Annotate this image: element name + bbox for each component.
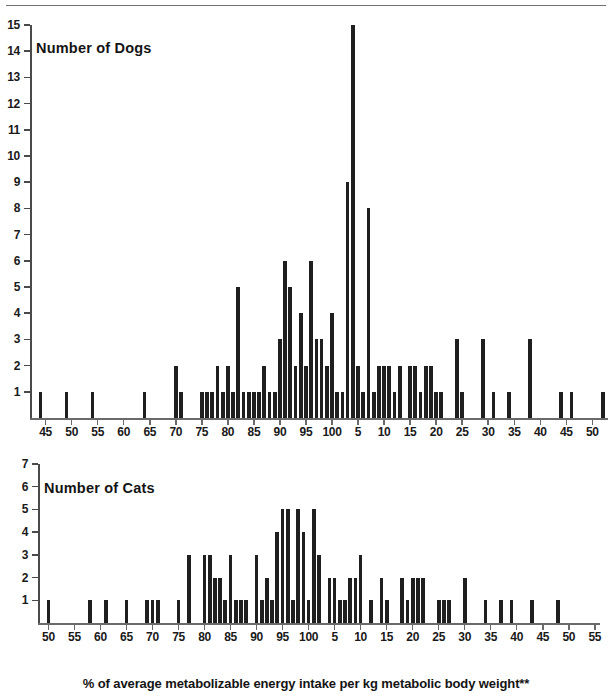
histogram-bar — [210, 392, 214, 418]
x-tick-label: 60 — [94, 631, 107, 643]
y-tick-label: 7 — [14, 229, 20, 241]
histogram-bar — [257, 392, 261, 418]
x-tick-label: 35 — [484, 631, 497, 643]
y-tick — [32, 554, 38, 556]
histogram-bar — [328, 578, 332, 623]
histogram-bar — [39, 392, 43, 418]
histogram-bar — [492, 392, 496, 418]
y-tick — [24, 77, 30, 79]
histogram-bar — [463, 578, 467, 623]
histogram-bar — [312, 509, 316, 623]
y-tick — [24, 234, 30, 236]
figure-page: Number of Dogs 1234567891011121314154550… — [0, 0, 612, 699]
histogram-bar — [234, 600, 238, 623]
page-top-rule — [6, 5, 606, 6]
y-tick — [24, 391, 30, 393]
histogram-bar — [244, 600, 248, 623]
cats-y-axis — [38, 464, 40, 623]
y-tick-label: 7 — [22, 458, 28, 470]
x-tick-label: 55 — [68, 631, 81, 643]
histogram-bar — [275, 532, 279, 623]
histogram-bar — [346, 182, 350, 418]
y-tick-label: 6 — [14, 255, 20, 267]
histogram-bar — [65, 392, 69, 418]
histogram-bar — [260, 600, 264, 623]
histogram-bar — [213, 578, 217, 623]
x-tick-label: 90 — [274, 426, 287, 438]
dogs-x-axis — [30, 418, 608, 420]
x-tick-label: 70 — [169, 426, 182, 438]
histogram-bar — [288, 287, 292, 418]
x-tick-label: 100 — [322, 426, 341, 438]
x-tick-label: 85 — [248, 426, 261, 438]
y-tick-label: 5 — [14, 281, 20, 293]
histogram-bar — [187, 555, 191, 623]
histogram-bar — [265, 578, 269, 623]
y-tick-label: 2 — [22, 572, 28, 584]
histogram-bar — [434, 392, 438, 418]
histogram-bar — [309, 261, 313, 418]
x-tick-label: 85 — [224, 631, 237, 643]
x-tick-label: 45 — [536, 631, 549, 643]
y-tick — [32, 531, 38, 533]
x-tick-label: 40 — [510, 631, 523, 643]
histogram-bar — [317, 555, 321, 623]
histogram-bar — [304, 366, 308, 418]
x-tick-label: 50 — [42, 631, 55, 643]
x-tick-label: 55 — [588, 631, 601, 643]
histogram-bar — [278, 339, 282, 418]
y-tick — [32, 600, 38, 602]
histogram-bar — [252, 392, 256, 418]
y-tick-label: 13 — [7, 71, 20, 83]
histogram-bar — [570, 392, 574, 418]
histogram-bar — [299, 313, 303, 418]
x-tick-label: 55 — [91, 426, 104, 438]
histogram-bar — [208, 555, 212, 623]
x-tick-label: 10 — [354, 631, 367, 643]
histogram-bar — [429, 366, 433, 418]
histogram-bar — [354, 578, 358, 623]
x-tick-label: 45 — [560, 426, 573, 438]
histogram-bar — [255, 555, 259, 623]
y-tick — [32, 486, 38, 488]
figure-caption: % of average metabolizable energy intake… — [0, 676, 612, 691]
dogs-y-axis — [30, 25, 32, 418]
histogram-bar — [143, 392, 147, 418]
y-tick — [24, 103, 30, 105]
x-tick-label: 75 — [172, 631, 185, 643]
dogs-plot-area: 1234567891011121314154550556065707580859… — [30, 25, 608, 418]
x-tick-label: 60 — [117, 426, 130, 438]
y-tick-label: 4 — [22, 526, 28, 538]
histogram-bar — [369, 600, 373, 623]
histogram-bar — [302, 532, 306, 623]
y-tick-label: 4 — [14, 307, 20, 319]
x-tick-label: 35 — [508, 426, 521, 438]
y-tick — [24, 339, 30, 341]
histogram-bar — [442, 600, 446, 623]
y-tick — [24, 208, 30, 210]
histogram-bar — [380, 578, 384, 623]
histogram-bar — [174, 366, 178, 418]
histogram-bar — [559, 392, 563, 418]
histogram-bar — [361, 392, 365, 418]
y-tick — [24, 286, 30, 288]
histogram-bar — [348, 578, 352, 623]
x-tick-label: 15 — [404, 426, 417, 438]
histogram-bar — [203, 555, 207, 623]
dogs-chart-panel: Number of Dogs 1234567891011121314154550… — [0, 18, 612, 450]
y-tick-label: 10 — [7, 150, 20, 162]
histogram-bar — [156, 600, 160, 623]
histogram-bar — [145, 600, 149, 623]
histogram-bar — [216, 366, 220, 418]
x-tick-label: 50 — [562, 631, 575, 643]
y-tick-label: 5 — [22, 503, 28, 515]
y-tick — [32, 509, 38, 511]
y-tick-label: 11 — [8, 124, 20, 136]
histogram-bar — [236, 287, 240, 418]
y-tick-label: 1 — [14, 386, 20, 398]
y-tick — [24, 155, 30, 157]
histogram-bar — [315, 339, 319, 418]
x-tick-label: 65 — [120, 631, 133, 643]
histogram-bar — [460, 392, 464, 418]
histogram-bar — [221, 392, 225, 418]
